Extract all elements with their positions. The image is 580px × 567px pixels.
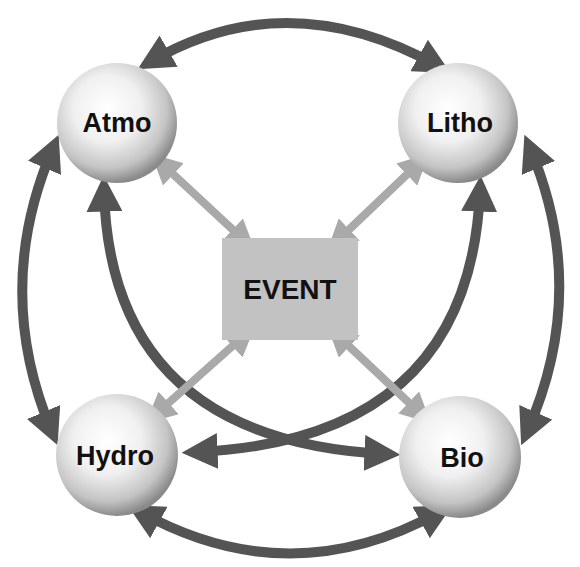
arrow-hydro-atmo <box>22 148 53 432</box>
arrow-litho-bio <box>527 148 559 432</box>
bio-label: Bio <box>440 443 484 473</box>
litho-label: Litho <box>427 108 493 138</box>
atmo-label: Atmo <box>83 108 152 138</box>
arrow-atmo-litho <box>150 23 438 66</box>
node-hydro: Hydro <box>56 394 178 516</box>
node-litho: Litho <box>398 63 518 183</box>
arrow-bio-hydro <box>140 512 440 554</box>
arrow-litho-event <box>336 162 420 242</box>
arrow-atmo-event <box>160 162 246 242</box>
earth-systems-diagram: EVENT Atmo Litho Hydro Bio <box>0 0 580 567</box>
event-label: EVENT <box>243 274 336 305</box>
node-bio: Bio <box>399 396 521 518</box>
node-atmo: Atmo <box>57 63 177 183</box>
hydro-label: Hydro <box>76 441 154 471</box>
event-node: EVENT <box>222 238 358 340</box>
